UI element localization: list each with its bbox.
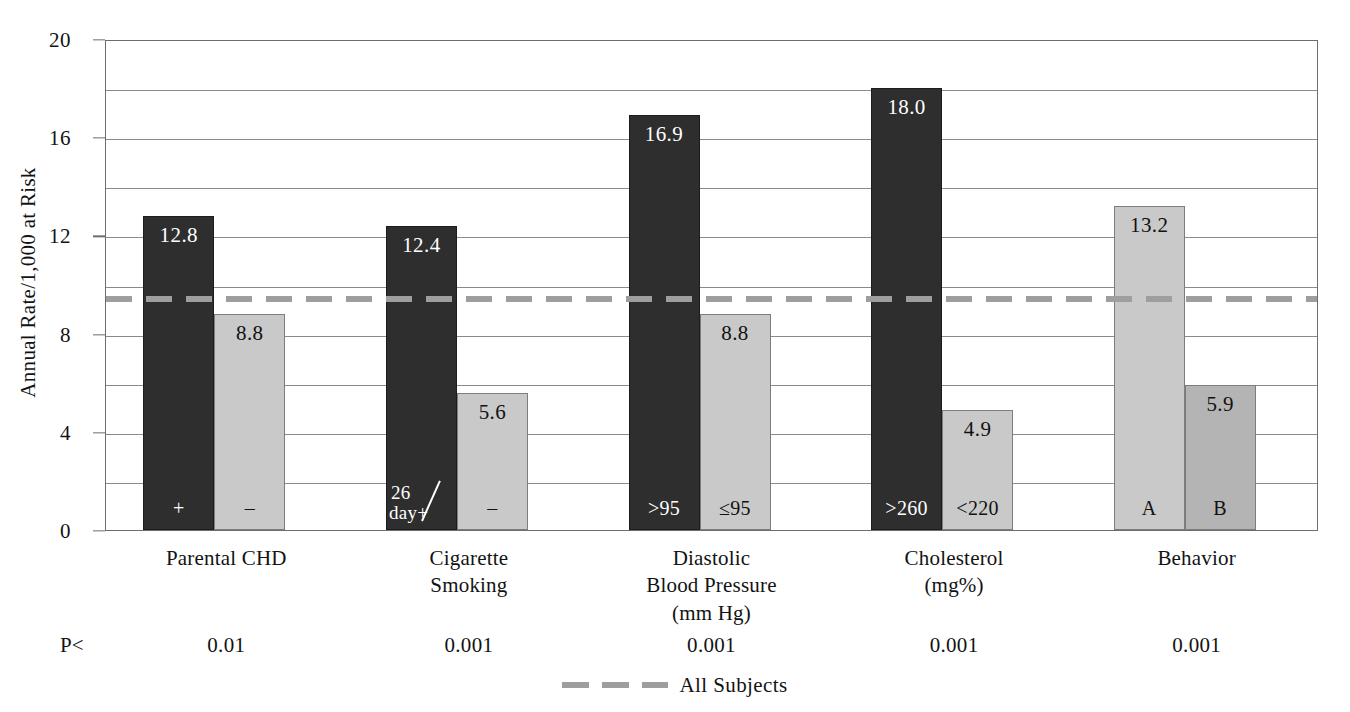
bar: 8.8≤95 — [700, 314, 771, 530]
y-axis-tick-mark — [93, 39, 105, 40]
x-axis-group-label-line: Behavior — [1053, 545, 1340, 572]
bar-category-label: >95 — [630, 498, 699, 518]
gridline — [106, 90, 1317, 91]
bar-value-label: 16.9 — [630, 124, 699, 145]
p-value: 0.001 — [1053, 633, 1340, 658]
bar: 16.9>95 — [629, 115, 700, 530]
bar: 12.8+ — [143, 216, 214, 530]
x-axis-group-label-line: (mm Hg) — [568, 600, 855, 627]
gridline — [106, 139, 1317, 140]
y-axis-tick-mark — [93, 432, 105, 433]
legend-dashed-line-swatch — [562, 682, 668, 688]
bar-category-label: + — [144, 498, 213, 518]
bar: 18.0>260 — [871, 88, 942, 530]
bar: 5.9B — [1185, 385, 1256, 530]
y-axis-tick-label: 12 — [49, 224, 71, 249]
bar-category-label: >260 — [872, 498, 941, 518]
bar-category-label-line1: 26 — [387, 483, 456, 503]
bar-category-label: – — [215, 498, 284, 518]
y-axis-tick-label: 8 — [60, 322, 71, 347]
bar-category-label: A — [1115, 498, 1184, 518]
chart-legend: All Subjects — [0, 668, 1350, 702]
gridline — [106, 188, 1317, 189]
bar-category-label: 26day+ — [387, 483, 456, 523]
plot-area: 12.8+8.8–12.426day+5.6–16.9>958.8≤9518.0… — [105, 40, 1318, 531]
bar: 8.8– — [214, 314, 285, 530]
bar: 12.426day+ — [386, 226, 457, 530]
legend-label-all-subjects: All Subjects — [679, 673, 787, 698]
chart-figure: Annual Rate/1,000 at Risk 048121620 12.8… — [0, 0, 1350, 712]
y-axis-tick-mark — [93, 530, 105, 531]
x-axis-group-label: Behavior — [1053, 545, 1340, 572]
y-axis-tick-label: 16 — [49, 126, 71, 151]
y-axis: Annual Rate/1,000 at Risk 048121620 — [0, 0, 105, 571]
bar-value-label: 13.2 — [1115, 215, 1184, 236]
p-value-row: P< 0.010.0010.0010.0010.001 — [0, 633, 1350, 663]
bar-value-label: 12.4 — [387, 235, 456, 256]
bar-value-label: 8.8 — [701, 323, 770, 344]
bar-value-label: 12.8 — [144, 225, 213, 246]
x-axis-group-label-line: (mg%) — [811, 572, 1098, 599]
bar: 13.2A — [1114, 206, 1185, 530]
y-axis-tick-mark — [93, 236, 105, 237]
y-axis-tick-label: 20 — [49, 28, 71, 53]
bar-value-label: 8.8 — [215, 323, 284, 344]
y-axis-tick-mark — [93, 334, 105, 335]
bar-value-label: 5.6 — [458, 402, 527, 423]
bar-category-label: ≤95 — [701, 498, 770, 518]
all-subjects-reference-line — [106, 296, 1317, 302]
y-axis-title: Annual Rate/1,000 at Risk — [16, 73, 41, 493]
bar: 4.9<220 — [942, 410, 1013, 530]
bar-value-label: 4.9 — [943, 419, 1012, 440]
bar-category-label: – — [458, 498, 527, 518]
bar-value-label: 5.9 — [1186, 394, 1255, 415]
bar-value-label: 18.0 — [872, 97, 941, 118]
bar: 5.6– — [457, 393, 528, 530]
bar-category-label-line2: day+ — [387, 503, 456, 523]
y-axis-tick-label: 0 — [60, 519, 71, 544]
bar-category-label: <220 — [943, 498, 1012, 518]
bar-category-label: B — [1186, 498, 1255, 518]
y-axis-tick-label: 4 — [60, 420, 71, 445]
p-value-label: P< — [60, 633, 84, 658]
y-axis-tick-mark — [93, 138, 105, 139]
